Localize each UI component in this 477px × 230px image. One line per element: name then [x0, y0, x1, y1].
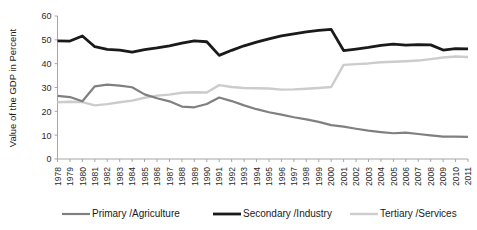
y-tick-label: 0 — [46, 154, 51, 164]
legend-label-3: Tertiary /Services — [380, 208, 457, 219]
y-axis-ticks: 0102030405060 — [41, 11, 57, 164]
x-tick-label: 2010 — [451, 167, 461, 186]
x-tick-label: 2002 — [351, 167, 361, 186]
x-tick-label: 1989 — [190, 167, 200, 186]
y-tick-label: 10 — [41, 131, 51, 141]
x-tick-label: 1999 — [314, 167, 324, 186]
x-tick-label: 1996 — [277, 167, 287, 186]
x-tick-label: 2007 — [413, 167, 423, 186]
y-tick-label: 50 — [41, 35, 51, 45]
x-tick-label: 2006 — [401, 167, 411, 186]
x-tick-label: 1994 — [252, 167, 262, 186]
x-tick-label: 1997 — [289, 167, 299, 186]
x-tick-label: 1985 — [140, 167, 150, 186]
series-line-tertiary-services — [58, 57, 469, 106]
x-tick-label: 2003 — [364, 167, 374, 186]
y-tick-label: 40 — [41, 59, 51, 69]
gdp-sector-line-chart: Value of the GDP in Percent 010203040506… — [0, 0, 477, 230]
x-tick-label: 1990 — [202, 167, 212, 186]
x-tick-label: 1987 — [165, 167, 175, 186]
x-tick-label: 1988 — [177, 167, 187, 186]
x-tick-label: 1982 — [102, 167, 112, 186]
x-tick-label: 1993 — [239, 167, 249, 186]
x-axis-ticks: 1978197919801981198219831984198519861987… — [53, 159, 474, 186]
x-tick-label: 1991 — [214, 167, 224, 186]
x-tick-label: 2004 — [376, 167, 386, 186]
x-tick-label: 2011 — [463, 167, 473, 186]
chart-legend: Primary /AgricultureSecondary /IndustryT… — [62, 208, 457, 219]
x-tick-label: 1986 — [152, 167, 162, 186]
chart-container: Value of the GDP in Percent 010203040506… — [0, 0, 477, 230]
x-tick-label: 1992 — [227, 167, 237, 186]
x-tick-label: 1978 — [53, 167, 63, 186]
x-tick-label: 1979 — [65, 167, 75, 186]
x-tick-label: 1983 — [115, 167, 125, 186]
x-tick-label: 2000 — [326, 167, 336, 186]
x-tick-label: 2008 — [426, 167, 436, 186]
x-tick-label: 1995 — [264, 167, 274, 186]
y-axis-title: Value of the GDP in Percent — [7, 28, 18, 147]
x-tick-label: 1980 — [78, 167, 88, 186]
x-tick-label: 2001 — [339, 167, 349, 186]
x-tick-label: 1998 — [301, 167, 311, 186]
y-tick-label: 60 — [41, 11, 51, 21]
y-axis-title-text: Value of the GDP in Percent — [7, 28, 18, 147]
x-tick-label: 2005 — [389, 167, 399, 186]
legend-label-2: Secondary /Industry — [243, 208, 332, 219]
series-lines — [58, 29, 469, 136]
x-tick-label: 1984 — [127, 167, 137, 186]
series-line-secondary-industry — [58, 29, 469, 55]
legend-label-1: Primary /Agriculture — [92, 208, 180, 219]
x-tick-label: 2009 — [438, 167, 448, 186]
x-tick-label: 1981 — [90, 167, 100, 186]
y-tick-label: 30 — [41, 83, 51, 93]
series-line-primary-agriculture — [58, 85, 469, 137]
y-tick-label: 20 — [41, 107, 51, 117]
